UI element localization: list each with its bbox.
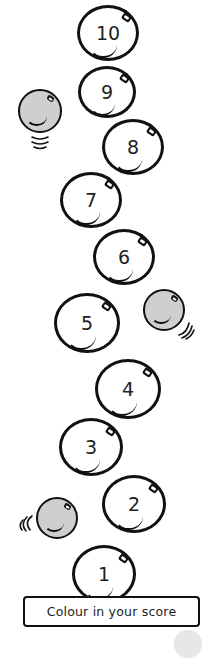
decorative-corner-ball xyxy=(174,630,202,658)
score-bubble-4[interactable]: 4 xyxy=(95,359,161,418)
score-bubble-7[interactable]: 7 xyxy=(60,172,122,228)
score-bubble-9[interactable]: 9 xyxy=(78,66,136,118)
score-bubble-2[interactable]: 2 xyxy=(102,475,166,533)
reflection-arc-icon xyxy=(114,503,143,531)
score-bubble-1[interactable]: 1 xyxy=(72,545,136,603)
reflection-arc-icon xyxy=(89,32,117,59)
reflection-arc-icon xyxy=(114,146,142,173)
score-bubble-10[interactable]: 10 xyxy=(77,5,139,61)
highlight-icon xyxy=(46,95,55,103)
reflection-arc-icon xyxy=(105,256,133,283)
reflection-arc-icon xyxy=(26,106,46,126)
reflection-arc-icon xyxy=(89,91,115,116)
motion-lines-icon xyxy=(18,514,48,544)
reflection-arc-icon xyxy=(66,321,96,349)
instruction-text: Colour in your score xyxy=(47,604,177,619)
grey-ball-icon xyxy=(18,89,62,133)
reflection-arc-icon xyxy=(72,199,100,226)
score-bubble-5[interactable]: 5 xyxy=(54,293,120,352)
reflection-arc-icon xyxy=(107,387,137,415)
highlight-icon xyxy=(63,502,72,510)
score-bubble-8[interactable]: 8 xyxy=(102,119,164,175)
reflection-arc-icon xyxy=(151,306,171,325)
highlight-icon xyxy=(117,553,128,564)
instruction-label: Colour in your score xyxy=(23,596,200,627)
highlight-icon xyxy=(104,426,115,437)
highlight-icon xyxy=(142,367,153,378)
score-bubble-6[interactable]: 6 xyxy=(93,229,155,285)
motion-lines-icon xyxy=(175,319,205,349)
reflection-arc-icon xyxy=(71,446,100,474)
highlight-icon xyxy=(170,294,179,302)
highlight-icon xyxy=(147,483,158,494)
score-bubble-3[interactable]: 3 xyxy=(59,418,123,476)
motion-lines-icon xyxy=(30,135,60,165)
highlight-icon xyxy=(101,301,112,312)
